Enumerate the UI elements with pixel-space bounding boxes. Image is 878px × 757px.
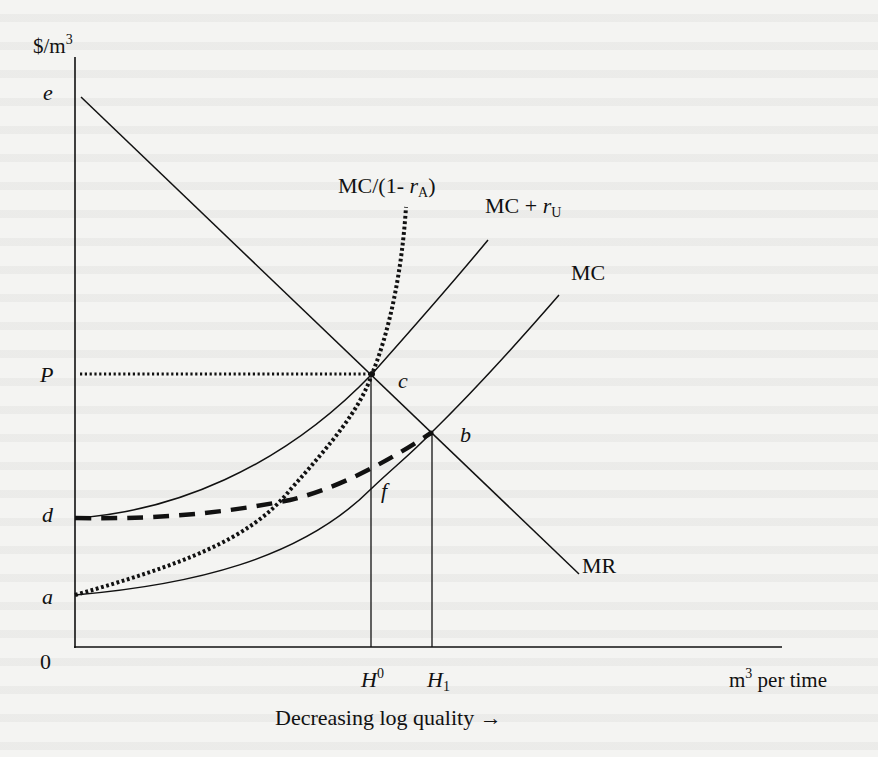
label-mc-over-one-minus-ra: MC/(1- rA) [338, 175, 436, 197]
label-e: e [43, 82, 53, 104]
mc-plus-ru-curve [75, 240, 488, 518]
label-p: P [40, 364, 53, 386]
label-a: a [42, 586, 53, 608]
label-mr: MR [582, 555, 616, 577]
label-mc: MC [571, 262, 605, 284]
dashed-cost-path [75, 433, 431, 518]
label-c: c [398, 370, 408, 392]
label-b: b [460, 424, 471, 446]
economics-diagram [0, 0, 878, 757]
y-axis-label: $/m3 [33, 36, 73, 57]
label-origin: 0 [40, 651, 51, 673]
tick-h1: H1 [427, 669, 450, 691]
label-mc-plus-ru: MC + rU [485, 195, 561, 217]
x-axis-caption: Decreasing log quality → [275, 707, 502, 729]
point-b-marker [429, 431, 434, 436]
mc-over-one-minus-ra-curve [75, 207, 406, 595]
label-f: f [381, 480, 387, 502]
tick-h0: H0 [361, 669, 384, 691]
x-axis-label: m3 per time [729, 670, 827, 691]
mc-curve [75, 295, 559, 595]
point-c-marker [369, 371, 375, 377]
mr-demand-line [81, 97, 579, 574]
label-d: d [42, 504, 53, 526]
figure-page: $/m3 e P d a 0 c b f MC/(1- rA) MC + rU … [0, 0, 878, 757]
